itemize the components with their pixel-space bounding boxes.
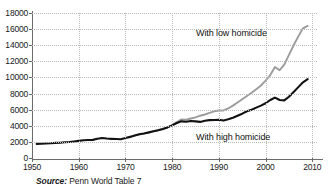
source-text: Penn World Table 7 xyxy=(69,176,141,186)
y-tick-label: 2000 xyxy=(0,138,28,147)
y-tick-label: 16000 xyxy=(0,25,28,34)
series-label-low-homicide: With low homicide xyxy=(196,28,267,38)
y-tick-label: 10000 xyxy=(0,73,28,82)
source-prefix: Source: xyxy=(36,176,67,186)
x-tick-label: 1980 xyxy=(163,163,181,172)
x-tick-label: 1990 xyxy=(210,163,228,172)
y-tick-label: 12000 xyxy=(0,57,28,66)
y-tick-label: 8000 xyxy=(0,90,28,99)
x-tick-label: 2010 xyxy=(303,163,321,172)
x-tick-label: 1960 xyxy=(70,163,88,172)
source-caption: Source: Penn World Table 7 xyxy=(36,176,141,186)
chart-figure: 0200040006000800010000120001400016000180… xyxy=(0,0,334,192)
y-tick-label: 14000 xyxy=(0,41,28,50)
x-tick-label: 2000 xyxy=(257,163,275,172)
y-tick-label: 4000 xyxy=(0,122,28,131)
y-tick-label: 18000 xyxy=(0,9,28,18)
x-tick-label: 1950 xyxy=(23,163,41,172)
y-tick-label: 6000 xyxy=(0,106,28,115)
series-label-high-homicide: With high homicide xyxy=(196,132,270,142)
x-tick-label: 1970 xyxy=(116,163,134,172)
